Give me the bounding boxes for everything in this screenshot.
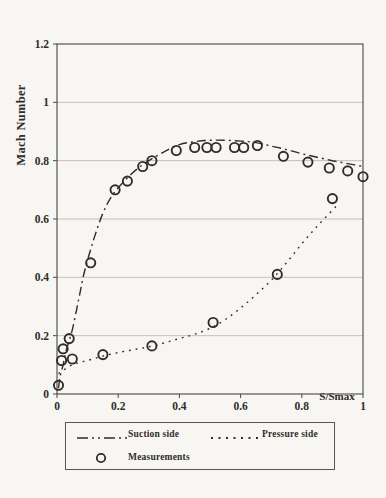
y-tick-label: 0.6 xyxy=(35,213,50,225)
measurement-point xyxy=(230,143,239,152)
measurement-point xyxy=(111,185,120,194)
measurement-point xyxy=(325,163,334,172)
x-tick-label: 0.4 xyxy=(172,400,187,412)
y-tick-label: 0.4 xyxy=(35,271,50,283)
y-tick-label: 0.2 xyxy=(35,330,50,342)
legend-suction-label: Suction side xyxy=(128,429,179,439)
measurement-point xyxy=(303,158,312,167)
measurement-point xyxy=(138,162,147,171)
measurement-point xyxy=(147,341,156,350)
x-tick-label: 0.2 xyxy=(111,400,126,412)
measurement-point xyxy=(172,146,181,155)
chart-legend: Suction side Pressure side Measurements xyxy=(65,422,335,470)
measurement-point xyxy=(57,356,66,365)
legend-pressure-label: Pressure side xyxy=(262,429,318,439)
measurement-point xyxy=(190,143,199,152)
measurement-point xyxy=(328,194,337,203)
legend-pressure-sample xyxy=(210,431,260,445)
legend-suction-sample xyxy=(76,431,128,445)
measurement-point xyxy=(343,166,352,175)
legend-measurements-label: Measurements xyxy=(128,452,190,462)
measurement-point xyxy=(68,354,77,363)
y-tick-label: 0 xyxy=(43,388,49,400)
x-tick-label: 0.6 xyxy=(233,400,248,412)
circle-marker-icon xyxy=(94,451,108,465)
measurement-point xyxy=(212,143,221,152)
measurement-point xyxy=(279,152,288,161)
y-tick-label: 0.8 xyxy=(35,155,50,167)
dashdot-line-icon xyxy=(76,431,128,445)
y-tick-label: 1 xyxy=(43,96,49,108)
series-pressure-side xyxy=(59,203,339,374)
dotted-line-icon xyxy=(210,431,260,445)
y-tick-label: 1.2 xyxy=(35,38,50,50)
scanned-figure: Mach Number S/Smax 00.20.40.60.811.200.2… xyxy=(0,0,386,498)
measurement-point xyxy=(209,318,218,327)
x-tick-label: 0 xyxy=(54,400,60,412)
measurement-point xyxy=(98,350,107,359)
measurement-point xyxy=(202,143,211,152)
x-tick-label: 1 xyxy=(360,400,366,412)
x-tick-label: 0.8 xyxy=(295,400,310,412)
legend-measurements-sample xyxy=(94,451,108,465)
measurement-point xyxy=(239,143,248,152)
